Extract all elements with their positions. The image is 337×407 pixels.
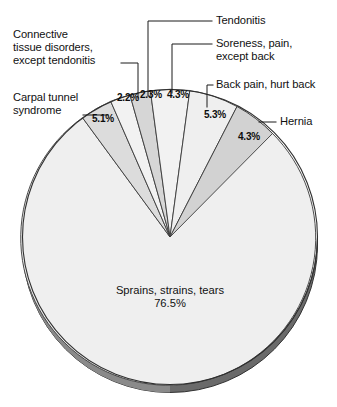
callout-label-connective-tissue: Connective tissue disorders, except tend… [13,28,95,68]
slice-value-hernia: 4.3% [238,131,260,142]
slice-value-back-pain: 5.3% [204,109,226,120]
slice-value-tendonitis: 2.3% [140,89,162,100]
leader-line-tendonitis [148,21,212,96]
callout-label-soreness-pain: Soreness, pain, except back [216,37,292,63]
slice-value-connective-tissue: 2.2% [117,92,139,103]
slice-label-sprains-strains-tears: Sprains, strains, tears 76.5% [60,284,280,311]
pie-chart-figure: Connective tissue disorders, except tend… [0,0,337,407]
callout-label-carpal-tunnel: Carpal tunnel syndrome [13,91,78,117]
callout-label-back-pain: Back pain, hurt back [216,78,315,91]
slice-value-soreness-pain: 4.3% [167,89,189,100]
callout-label-hernia: Hernia [280,115,312,128]
pie-slices [21,89,318,385]
slice-value-carpal-tunnel: 5.1% [92,113,114,124]
callout-label-tendonitis: Tendonitis [216,14,265,27]
leader-line-soreness [172,44,212,93]
